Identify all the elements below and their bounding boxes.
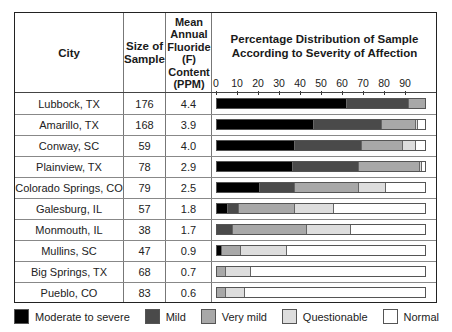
legend-item-very-mild: Very mild xyxy=(201,309,267,324)
x-tick-label: 60 xyxy=(336,77,348,89)
bar-segment-moderate-to-severe xyxy=(217,162,292,171)
city-cell: Lubbock, TX xyxy=(15,93,123,114)
x-tick-label: 40 xyxy=(294,77,306,89)
bar-segment-very-mild xyxy=(238,204,294,213)
bar-segment-mild xyxy=(227,204,237,213)
size-cell: 38 xyxy=(124,219,165,240)
size-cell: 83 xyxy=(124,282,165,303)
size-cell: 57 xyxy=(124,198,165,219)
fluoride-cell: 3.9 xyxy=(166,114,211,135)
x-tick-label: 0 xyxy=(213,77,219,89)
legend-label: Mild xyxy=(166,311,186,323)
bar-segment-very-mild xyxy=(232,225,307,234)
city-cell: Monmouth, IL xyxy=(15,219,123,240)
city-cell: Colorado Springs, CO xyxy=(15,177,123,198)
bar-segment-questionable xyxy=(402,141,414,150)
bar-segment-mild xyxy=(294,141,361,150)
city-cell: Pueblo, CO xyxy=(15,282,123,303)
bar-segment-questionable xyxy=(306,225,350,234)
legend-label: Very mild xyxy=(222,311,267,323)
stacked-bar xyxy=(216,161,426,172)
bar-segment-normal xyxy=(333,204,425,213)
bar-segment-questionable xyxy=(358,183,385,192)
chart-title: Percentage Distribution of Sample Accord… xyxy=(212,32,437,60)
x-tick-label: 80 xyxy=(378,77,390,89)
x-tick-label: 30 xyxy=(273,77,285,89)
bar-segment-very-mild xyxy=(294,183,358,192)
fluoride-cell: 0.7 xyxy=(166,261,211,282)
bar-segment-mild xyxy=(217,225,232,234)
bar-segment-questionable xyxy=(240,246,286,255)
bar-segment-questionable xyxy=(225,288,244,297)
legend-label: Moderate to severe xyxy=(35,311,130,323)
bar-segment-moderate-to-severe xyxy=(217,141,294,150)
bar-segment-very-mild xyxy=(217,267,225,276)
legend-item-questionable: Questionable xyxy=(282,309,368,324)
stacked-bar xyxy=(216,182,426,193)
table-frame: City Size of Sample Mean Annual Fluoride… xyxy=(14,12,437,303)
fluoride-cell: 4.4 xyxy=(166,93,211,114)
fluoride-cell: 4.0 xyxy=(166,135,211,156)
x-tick-label: 10 xyxy=(231,77,243,89)
fluoride-cell: 1.8 xyxy=(166,198,211,219)
bar-segment-very-mild xyxy=(217,288,225,297)
size-cell: 168 xyxy=(124,114,165,135)
x-tick-label: 20 xyxy=(252,77,264,89)
bar-segment-normal xyxy=(415,141,425,150)
bar-segment-normal xyxy=(417,120,425,129)
city-cell: Amarillo, TX xyxy=(15,114,123,135)
bar-segment-mild xyxy=(292,162,359,171)
bar-segment-mild xyxy=(259,183,294,192)
stacked-bar xyxy=(216,266,426,277)
size-cell: 176 xyxy=(124,93,165,114)
city-cell: Plainview, TX xyxy=(15,156,123,177)
size-cell: 78 xyxy=(124,156,165,177)
legend: Moderate to severeMildVery mildQuestiona… xyxy=(14,309,439,324)
bar-segment-moderate-to-severe xyxy=(217,183,259,192)
bar-segment-normal xyxy=(244,288,425,297)
legend-item-normal: Normal xyxy=(383,309,439,324)
header-city: City xyxy=(15,13,123,93)
x-tick-label: 90 xyxy=(399,77,411,89)
bar-segment-very-mild xyxy=(408,99,425,108)
stacked-bar xyxy=(216,119,426,130)
bar-segment-mild xyxy=(313,120,382,129)
bar-segment-normal xyxy=(286,246,425,255)
bar-segment-normal xyxy=(421,162,425,171)
stacked-bar xyxy=(216,224,426,235)
fluoride-cell: 2.9 xyxy=(166,156,211,177)
bar-segment-mild xyxy=(346,99,408,108)
stacked-bar xyxy=(216,140,426,151)
bar-segment-very-mild xyxy=(361,141,403,150)
legend-swatch xyxy=(14,309,29,324)
divider xyxy=(211,13,212,302)
legend-item-moderate-to-severe: Moderate to severe xyxy=(14,309,130,324)
size-cell: 47 xyxy=(124,240,165,261)
bar-segment-questionable xyxy=(225,267,250,276)
stacked-bar xyxy=(216,287,426,298)
bar-segment-moderate-to-severe xyxy=(217,99,346,108)
legend-swatch xyxy=(201,309,216,324)
legend-item-mild: Mild xyxy=(145,309,186,324)
bar-segment-normal xyxy=(385,183,425,192)
legend-swatch xyxy=(282,309,297,324)
legend-label: Normal xyxy=(404,311,439,323)
legend-swatch xyxy=(145,309,160,324)
size-cell: 59 xyxy=(124,135,165,156)
x-tick-label: 50 xyxy=(315,77,327,89)
bar-segment-very-mild xyxy=(221,246,240,255)
header-fluoride: Mean Annual Fluoride (F) Content (PPM) xyxy=(166,13,212,93)
stacked-bar xyxy=(216,245,426,256)
stacked-bar xyxy=(216,203,426,214)
size-cell: 79 xyxy=(124,177,165,198)
legend-swatch xyxy=(383,309,398,324)
stacked-bar xyxy=(216,98,426,109)
legend-label: Questionable xyxy=(303,311,368,323)
fluoride-cell: 2.5 xyxy=(166,177,211,198)
bar-segment-questionable xyxy=(294,204,334,213)
city-cell: Galesburg, IL xyxy=(15,198,123,219)
fluoride-cell: 0.6 xyxy=(166,282,211,303)
city-cell: Conway, SC xyxy=(15,135,123,156)
header-size: Size of Sample xyxy=(124,13,165,93)
bar-segment-very-mild xyxy=(381,120,414,129)
